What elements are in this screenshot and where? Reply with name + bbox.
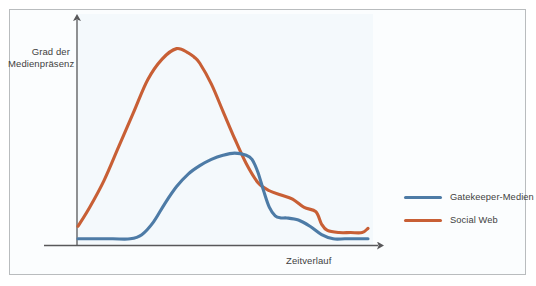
legend-label-gatekeeper-medien: Gatekeeper-Medien (450, 192, 534, 202)
chart-canvas (0, 0, 536, 286)
legend-swatch-gatekeeper-medien (404, 196, 442, 199)
legend-label-social-web: Social Web (450, 215, 498, 225)
legend-swatch-social-web (404, 219, 442, 222)
legend-item-social-web: Social Web (404, 212, 532, 228)
legend-item-gatekeeper-medien: Gatekeeper-Medien (404, 189, 532, 205)
y-axis-label: Grad der Medienpräsenz (8, 46, 70, 70)
chart-figure: Grad der Medienpräsenz Zeitverlauf Gatek… (0, 0, 536, 286)
x-axis-label: Zeitverlauf (286, 255, 376, 267)
chart-legend: Gatekeeper-Medien Social Web (404, 189, 532, 235)
series-line-social-web (78, 48, 368, 232)
